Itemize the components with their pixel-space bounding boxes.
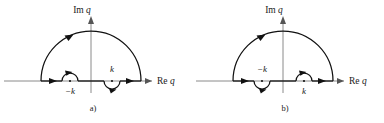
contour-diagram-figure: Im q Re q −k k a) bbox=[0, 0, 384, 123]
imaginary-axis-label-b: Im q bbox=[265, 5, 283, 15]
pole-label-minus-k-b: −k bbox=[257, 64, 268, 74]
panel-caption-b: b) bbox=[281, 103, 288, 113]
pole-label-k-a: k bbox=[110, 64, 115, 74]
pole-label-minus-k-a: −k bbox=[65, 86, 76, 96]
imaginary-axis-label-a: Im q bbox=[73, 5, 91, 15]
panel-caption-a: a) bbox=[90, 103, 97, 113]
pole-marker-minus-k-a bbox=[69, 80, 71, 82]
panel-b: Im q Re q −k k b) bbox=[192, 0, 384, 123]
pole-marker-minus-k-b bbox=[261, 80, 263, 82]
panel-a: Im q Re q −k k a) bbox=[0, 0, 192, 123]
panel-b-canvas: Im q Re q −k k b) bbox=[192, 0, 384, 123]
real-axis-label-a: Re q bbox=[157, 76, 175, 86]
real-axis-label-b: Re q bbox=[349, 76, 367, 86]
pole-label-k-b: k bbox=[302, 86, 307, 96]
pole-marker-k-a bbox=[111, 80, 113, 82]
panel-a-canvas: Im q Re q −k k a) bbox=[0, 0, 192, 123]
pole-marker-k-b bbox=[303, 80, 305, 82]
